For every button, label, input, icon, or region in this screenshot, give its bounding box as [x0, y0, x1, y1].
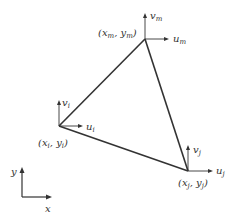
node-m: vm um (xm, ym)	[98, 10, 186, 46]
node-i: vi ui (xi, yi)	[38, 97, 95, 150]
u-j-label: uj	[216, 165, 225, 178]
v-i-arrowhead-icon	[57, 100, 61, 105]
x-axis-label: x	[45, 203, 51, 214]
u-m-label: um	[173, 33, 186, 46]
u-i-arrowhead-icon	[78, 124, 83, 128]
edge-j-i	[59, 126, 188, 171]
y-axis-label: y	[10, 166, 17, 177]
coord-i-label: (xi, yi)	[38, 137, 68, 150]
coord-m-label: (xm, ym)	[98, 27, 137, 40]
y-axis-arrowhead-icon	[20, 167, 25, 173]
u-j-arrowhead-icon	[208, 169, 213, 173]
global-axes: y x	[10, 166, 52, 214]
v-j-arrowhead-icon	[186, 145, 190, 150]
x-axis-arrowhead-icon	[46, 195, 52, 200]
u-i-label: ui	[86, 121, 95, 134]
edge-m-j	[145, 39, 188, 171]
v-m-label: vm	[150, 10, 163, 23]
v-m-arrowhead-icon	[143, 13, 147, 18]
triangle-element-diagram: vm um (xm, ym) vi ui (xi, yi) vj uj (xj,…	[0, 0, 235, 223]
v-i-label: vi	[62, 97, 70, 110]
u-m-arrowhead-icon	[164, 37, 169, 41]
v-j-label: vj	[193, 144, 202, 157]
coord-j-label: (xj, yj)	[178, 177, 208, 190]
node-j: vj uj (xj, yj)	[178, 144, 225, 190]
edge-i-m	[59, 39, 145, 126]
